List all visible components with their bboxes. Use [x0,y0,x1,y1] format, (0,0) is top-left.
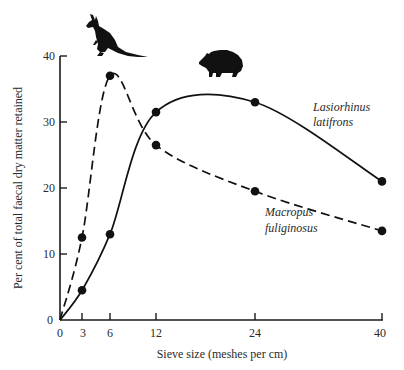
data-point-marker [78,286,87,295]
kangaroo-icon [86,14,148,57]
y-axis: 40 30 20 10 0 [43,49,67,327]
x-tick-label: 0 [57,326,63,340]
y-tick-label: 0 [47,313,53,327]
y-tick-label: 30 [43,115,55,129]
y-tick-label: 20 [43,181,55,195]
x-axis: 0 3 6 12 24 40 [57,313,386,340]
y-tick-label: 10 [43,247,55,261]
macropus-label: Macropus [264,205,314,219]
data-point-marker [152,141,161,150]
x-tick-label: 40 [374,326,386,340]
x-tick-label: 12 [150,326,162,340]
chart: 40 30 20 10 0 0 3 6 12 24 40 Sieve size … [0,0,404,370]
macropus-label: fuliginosus [265,221,318,235]
lasiorhinus-label: Lasiorhinus [312,100,370,114]
x-tick-label: 3 [80,326,86,340]
data-point-marker [251,187,260,196]
x-tick-label: 24 [249,326,261,340]
lasiorhinus-label: latifrons [313,115,354,129]
wombat-icon [199,50,243,77]
data-point-marker [106,230,115,239]
data-point-marker [251,98,260,107]
x-tick-label: 6 [107,326,113,340]
y-tick-label: 40 [43,49,55,63]
data-point-marker [378,227,387,236]
data-point-marker [152,108,161,117]
data-point-marker [378,177,387,186]
y-axis-title: Per cent of total faecal dry matter reta… [11,87,25,289]
data-point-marker [78,233,87,242]
x-axis-title: Sieve size (meshes per cm) [157,347,288,361]
data-point-marker [106,72,115,81]
